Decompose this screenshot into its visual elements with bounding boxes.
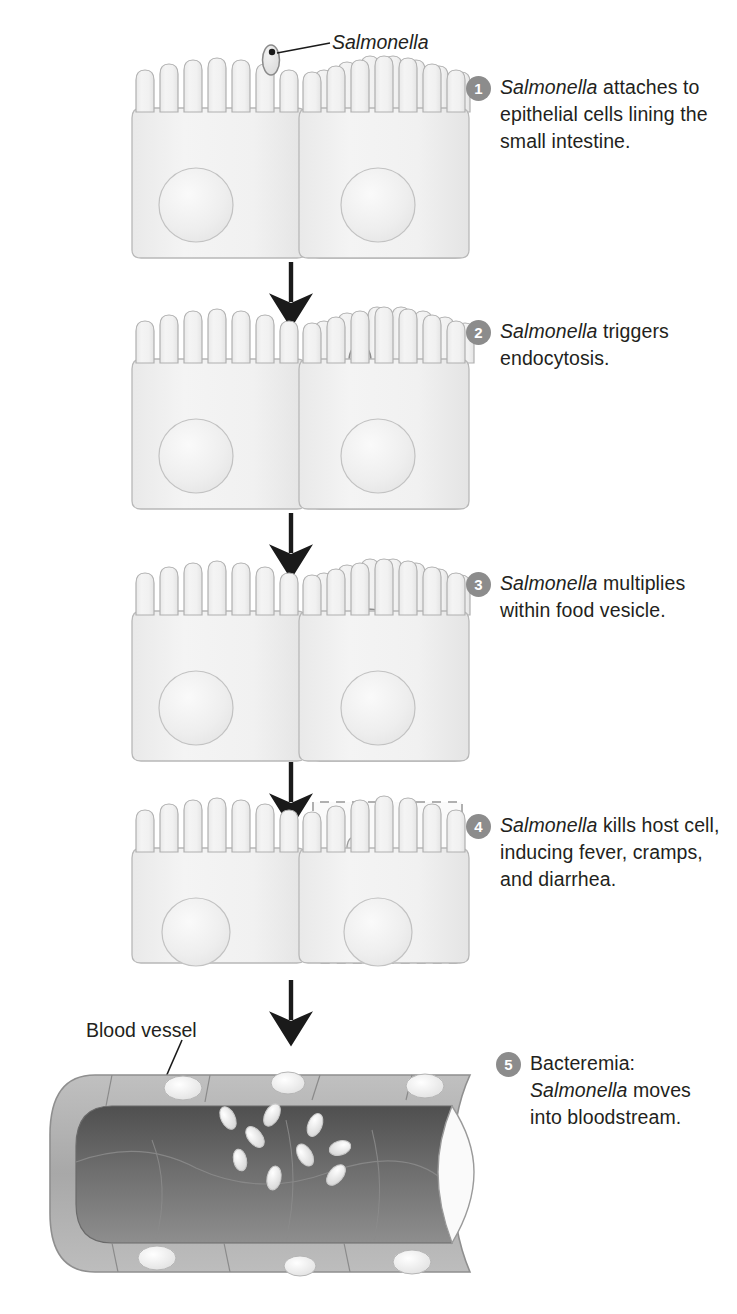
step-5-prefix: Bacteremia: <box>530 1052 635 1074</box>
step-3: 3 Salmonella multiplies within food vesi… <box>466 570 728 624</box>
step-2-caption: Salmonella triggers endocytosis. <box>500 318 728 372</box>
stage-1-epithelium <box>132 43 470 258</box>
nucleus <box>341 419 415 493</box>
step-3-badge: 3 <box>466 572 491 597</box>
epithelial-cell <box>132 561 306 761</box>
stage-4-epithelium <box>132 796 469 966</box>
salmonella-label: Salmonella <box>332 30 428 54</box>
step-4-organism: Salmonella <box>500 814 597 836</box>
step-5-organism: Salmonella <box>530 1079 627 1101</box>
epithelial-cell <box>132 309 306 509</box>
stage-2-epithelium <box>132 307 474 509</box>
nucleus <box>341 671 415 745</box>
step-1: 1 Salmonella attaches to epithelial cell… <box>466 74 728 155</box>
step-5-badge: 5 <box>496 1052 521 1077</box>
salmonella-leader-line <box>277 43 330 53</box>
epithelial-cell <box>132 798 306 966</box>
step-1-badge: 1 <box>466 76 491 101</box>
blood-vessel-label: Blood vessel <box>86 1018 197 1042</box>
nucleus <box>341 168 415 242</box>
step-5-caption: Bacteremia: Salmonella moves into bloods… <box>530 1050 728 1131</box>
step-4-badge: 4 <box>466 814 491 839</box>
step-4: 4 Salmonella kills host cell, inducing f… <box>466 812 728 893</box>
nucleus <box>159 168 233 242</box>
step-2-organism: Salmonella <box>500 320 597 342</box>
nucleus <box>162 898 230 966</box>
stage-3-epithelium <box>132 559 470 761</box>
step-1-organism: Salmonella <box>500 76 597 98</box>
step-3-caption: Salmonella multiplies within food vesicl… <box>500 570 728 624</box>
step-1-caption: Salmonella attaches to epithelial cells … <box>500 74 728 155</box>
step-3-organism: Salmonella <box>500 572 597 594</box>
epithelial-cell <box>132 58 306 258</box>
step-5: 5 Bacteremia: Salmonella moves into bloo… <box>496 1050 728 1131</box>
step-2: 2 Salmonella triggers endocytosis. <box>466 318 728 372</box>
step-2-badge: 2 <box>466 320 491 345</box>
step-4-caption: Salmonella kills host cell, inducing fev… <box>500 812 728 893</box>
blood-vessel <box>50 1072 474 1276</box>
nucleus <box>159 419 233 493</box>
salmonella-infection-figure: Salmonella Blood vessel 1 Salmonella att… <box>0 0 737 1314</box>
nucleus <box>344 898 412 966</box>
nucleus <box>159 671 233 745</box>
